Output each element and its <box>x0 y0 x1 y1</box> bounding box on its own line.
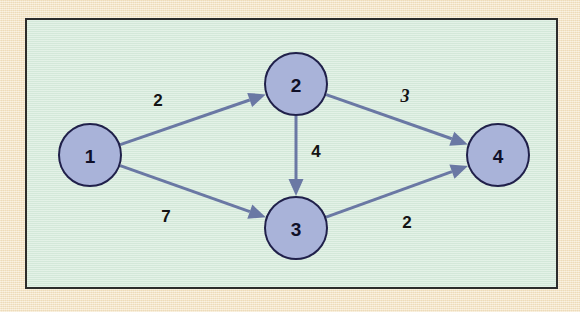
edge-weight-1-3: 7 <box>161 207 170 226</box>
edge-arrowhead-icon <box>449 165 468 179</box>
figure-root: 1234 27432 <box>0 0 580 312</box>
edge-weight-2-3: 4 <box>311 142 321 161</box>
edge-1-to-2 <box>120 93 265 145</box>
edge-weight-2-4: 3 <box>400 86 410 106</box>
edge-line <box>120 166 250 212</box>
graph-node-2[interactable]: 2 <box>265 53 327 115</box>
edge-3-to-4 <box>326 165 468 218</box>
edge-weight-1-2: 2 <box>153 91 162 110</box>
edge-weight-3-4: 2 <box>402 213 411 232</box>
node-label: 4 <box>493 146 504 167</box>
edge-arrowhead-icon <box>247 205 266 219</box>
node-label: 3 <box>291 219 302 240</box>
edge-arrowhead-icon <box>289 179 304 196</box>
edge-arrowhead-icon <box>449 132 468 146</box>
node-layer: 1234 <box>59 53 529 259</box>
edge-line <box>326 172 452 217</box>
graph-node-4[interactable]: 4 <box>467 124 529 186</box>
graph-node-1[interactable]: 1 <box>59 124 121 186</box>
edge-2-to-4 <box>326 95 468 146</box>
edge-line <box>326 95 452 139</box>
graph-node-3[interactable]: 3 <box>265 197 327 259</box>
edge-arrowhead-icon <box>247 93 266 107</box>
figure-frame: 1234 27432 <box>25 18 558 289</box>
edge-line <box>120 100 249 145</box>
node-label: 1 <box>85 146 96 167</box>
edge-1-to-3 <box>120 166 266 219</box>
edge-2-to-3 <box>289 116 304 196</box>
node-label: 2 <box>291 75 302 96</box>
graph-diagram: 1234 27432 <box>27 20 556 287</box>
